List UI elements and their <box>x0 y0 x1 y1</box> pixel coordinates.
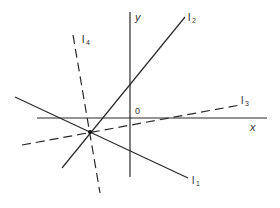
line-l4 <box>73 35 100 193</box>
line-l2 <box>62 17 185 168</box>
label-l3: l 3 <box>241 94 249 107</box>
origin-label: 0 <box>135 106 140 116</box>
x-axis-label: x <box>249 121 256 133</box>
line-l1 <box>15 97 188 178</box>
svg-text:4: 4 <box>86 39 90 46</box>
svg-text:2: 2 <box>192 17 196 24</box>
svg-text:l: l <box>82 33 84 45</box>
svg-text:3: 3 <box>245 100 249 107</box>
label-l1: l 1 <box>192 174 200 187</box>
label-l4: l 4 <box>82 33 90 46</box>
label-l2: l 2 <box>188 11 196 24</box>
svg-text:l: l <box>192 174 194 186</box>
y-axis-label: y <box>134 11 142 23</box>
svg-text:l: l <box>188 11 190 23</box>
svg-text:l: l <box>241 94 243 106</box>
lines-diagram: y x 0 l 1 l 2 l 3 l 4 <box>0 0 280 208</box>
svg-text:1: 1 <box>196 180 200 187</box>
line-l3 <box>22 105 240 145</box>
intersection-point <box>88 130 92 134</box>
